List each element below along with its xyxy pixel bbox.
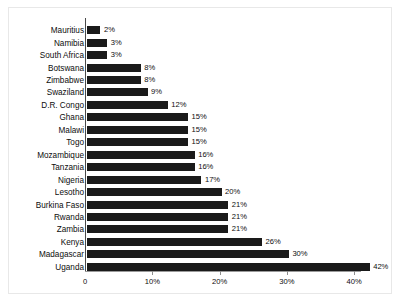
bar-value-label: 8% <box>144 76 155 84</box>
bar-row: Kenya26% <box>0 236 401 248</box>
bar-value-label: 3% <box>111 51 122 59</box>
bar <box>87 88 148 96</box>
bar-value-label: 30% <box>292 250 307 258</box>
category-label: Namibia <box>54 38 84 47</box>
category-label: Zimbabwe <box>46 76 84 85</box>
bar <box>87 176 201 184</box>
bar <box>87 138 188 146</box>
bar-value-label: 12% <box>171 101 186 109</box>
bar-row: Madagascar30% <box>0 248 401 260</box>
bar-value-label: 9% <box>151 88 162 96</box>
category-label: Rwanda <box>54 212 84 221</box>
bar-value-label: 16% <box>198 151 213 159</box>
bar-row: D.R. Congo12% <box>0 99 401 111</box>
category-label: Mauritius <box>51 26 84 35</box>
category-label: Uganda <box>55 262 84 271</box>
category-label: Swaziland <box>47 88 84 97</box>
x-axis-tick-label: 20% <box>212 277 227 286</box>
bar-row: Rwanda21% <box>0 211 401 223</box>
bar-row: Togo15% <box>0 136 401 148</box>
bar <box>87 101 168 109</box>
bar-value-label: 3% <box>111 39 122 47</box>
plot-area: Mauritius2%Namibia3%South Africa3%Botswa… <box>0 0 401 301</box>
bar-value-label: 21% <box>232 213 247 221</box>
bar-value-label: 15% <box>191 113 206 121</box>
bar-row: Nigeria17% <box>0 173 401 185</box>
bar <box>87 126 188 134</box>
category-label: Togo <box>66 138 84 147</box>
bar <box>87 250 289 258</box>
bar <box>87 26 100 34</box>
bar <box>87 151 195 159</box>
x-axis-tick <box>287 271 288 275</box>
bar-row: South Africa3% <box>0 49 401 61</box>
bar-value-label: 26% <box>265 238 280 246</box>
category-label: Burkina Faso <box>36 200 84 209</box>
category-label: Kenya <box>61 237 84 246</box>
bar-row: Tanzania16% <box>0 161 401 173</box>
bar <box>87 263 370 271</box>
x-axis-tick-label: 10% <box>145 277 160 286</box>
bar-row: Zambia21% <box>0 223 401 235</box>
category-label: Tanzania <box>51 163 84 172</box>
bar <box>87 213 228 221</box>
bar <box>87 76 141 84</box>
bar-value-label: 2% <box>104 26 115 34</box>
x-axis-tick-label: 30% <box>279 277 294 286</box>
bar-chart: Mauritius2%Namibia3%South Africa3%Botswa… <box>0 0 401 301</box>
category-label: Mozambique <box>37 150 84 159</box>
category-label: South Africa <box>40 51 84 60</box>
bar-row: Mozambique16% <box>0 149 401 161</box>
bar-value-label: 42% <box>373 263 388 271</box>
bar <box>87 201 228 209</box>
bar-row: Botswana8% <box>0 61 401 73</box>
bar-row: Lesotho20% <box>0 186 401 198</box>
bar-row: Ghana15% <box>0 111 401 123</box>
bar-row: Uganda42% <box>0 261 401 273</box>
bar <box>87 163 195 171</box>
bar-value-label: 15% <box>191 138 206 146</box>
category-label: Zambia <box>57 225 84 234</box>
bar-value-label: 8% <box>144 64 155 72</box>
category-label: D.R. Congo <box>41 100 84 109</box>
bar-value-label: 20% <box>225 188 240 196</box>
category-label: Nigeria <box>58 175 84 184</box>
bar-row: Malawi15% <box>0 124 401 136</box>
x-axis-tick-label: 0 <box>83 277 87 286</box>
x-axis-tick-label: 40% <box>347 277 362 286</box>
bar-row: Namibia3% <box>0 36 401 48</box>
bar-row: Mauritius2% <box>0 24 401 36</box>
x-axis-tick <box>220 271 221 275</box>
bar-value-label: 15% <box>191 126 206 134</box>
bar-value-label: 16% <box>198 163 213 171</box>
category-label: Malawi <box>59 125 84 134</box>
bar <box>87 225 228 233</box>
bar-value-label: 21% <box>232 225 247 233</box>
x-axis-tick <box>354 271 355 275</box>
bar <box>87 51 107 59</box>
bar-value-label: 17% <box>205 176 220 184</box>
bar <box>87 113 188 121</box>
category-label: Ghana <box>59 113 84 122</box>
bar-row: Zimbabwe8% <box>0 74 401 86</box>
bar-row: Burkina Faso21% <box>0 198 401 210</box>
bar <box>87 188 222 196</box>
bar-value-label: 21% <box>232 201 247 209</box>
category-label: Lesotho <box>55 188 84 197</box>
bar <box>87 238 262 246</box>
category-label: Botswana <box>48 63 84 72</box>
bar <box>87 39 107 47</box>
bar-row: Swaziland9% <box>0 86 401 98</box>
bar <box>87 64 141 72</box>
category-label: Madagascar <box>39 250 84 259</box>
x-axis-tick <box>152 271 153 275</box>
